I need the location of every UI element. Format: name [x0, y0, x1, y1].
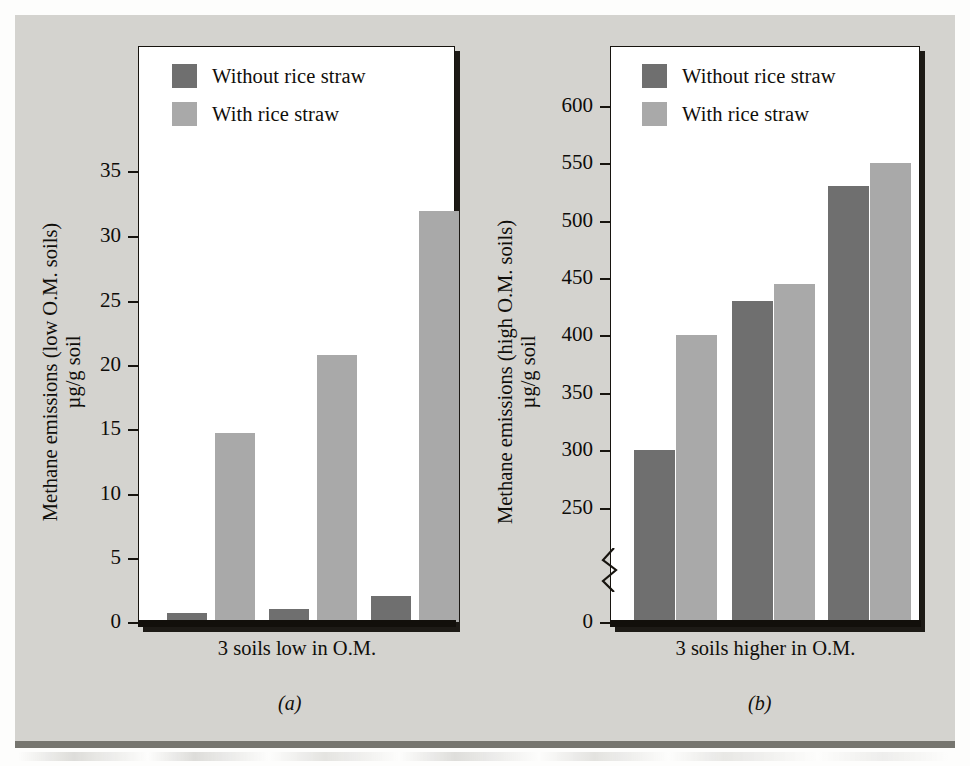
panel-a-tick-15 [128, 429, 138, 431]
panel-b-y-axis-label-line2: µg/g soil [517, 336, 539, 409]
panel-b-axis-break-icon [598, 548, 624, 592]
panel-b-bar-group2-with [774, 284, 815, 622]
panel-b-bar-group2-without [732, 301, 773, 622]
panel-b-bar-group1-without [634, 450, 675, 622]
panel-a-tick-0 [128, 622, 138, 624]
panel-a-x-axis-label: 3 soils low in O.M. [138, 637, 456, 660]
panel-a-bar-group1-with [215, 433, 255, 622]
panel-b-baseline [610, 620, 921, 627]
panel-a-tick-25 [128, 301, 138, 303]
legend-label-without-rice-straw: Without rice straw [212, 65, 366, 88]
legend-item-without-rice-straw: Without rice straw [642, 61, 836, 91]
panel-b: Without rice straw With rice straw 600 5… [470, 15, 955, 742]
panel-b-tick-500 [600, 221, 610, 223]
panel-a-y-axis-label: Methane emissions (low O.M. soils) µg/g … [39, 137, 85, 607]
panel-b-caption: (b) [748, 692, 771, 715]
panel-b-y-axis-label-line1: Methane emissions (high O.M. soils) [494, 220, 516, 524]
legend-swatch-dark-icon [642, 64, 667, 88]
panel-b-x-axis-label: 3 soils higher in O.M. [610, 637, 921, 660]
legend-label-without-rice-straw: Without rice straw [682, 65, 836, 88]
legend-item-with-rice-straw: With rice straw [172, 99, 366, 129]
panel-b-tick-550 [600, 163, 610, 165]
panel-b-y-axis-label: Methane emissions (high O.M. soils) µg/g… [494, 137, 540, 607]
panel-b-bar-group3-with [870, 163, 911, 622]
panel-a-tick-10 [128, 494, 138, 496]
panel-a-baseline [138, 620, 456, 627]
legend-swatch-dark-icon [172, 64, 197, 88]
panel-a-plot-area [138, 46, 455, 627]
panel-b-tick-250 [600, 508, 610, 510]
panel-a-tick-30 [128, 236, 138, 238]
panel-b-tick-400 [600, 335, 610, 337]
legend-swatch-light-icon [172, 102, 197, 126]
panel-b-tick-450 [600, 278, 610, 280]
panel-b-bar-group1-with [676, 335, 717, 622]
figure-bottom-rule [15, 741, 955, 748]
panel-a-y-axis-label-line1: Methane emissions (low O.M. soils) [39, 223, 61, 521]
panel-b-tick-350 [600, 393, 610, 395]
panel-a-y-axis-label-line2: µg/g soil [62, 336, 84, 409]
panel-a-legend: Without rice straw With rice straw [172, 61, 366, 129]
legend-label-with-rice-straw: With rice straw [682, 103, 809, 126]
panel-b-ytick-label-600: 600 [528, 93, 593, 118]
panel-a-caption: (a) [278, 692, 301, 715]
panel-b-legend: Without rice straw With rice straw [642, 61, 836, 129]
panel-b-bar-group3-without [828, 186, 869, 622]
panel-a-tick-20 [128, 365, 138, 367]
legend-swatch-light-icon [642, 102, 667, 126]
panel-a-tick-5 [128, 558, 138, 560]
legend-item-without-rice-straw: Without rice straw [172, 61, 366, 91]
panel-a-bar-group2-with [317, 355, 357, 622]
panel-b-tick-0 [600, 622, 610, 624]
panel-a: Without rice straw With rice straw 35 30… [15, 15, 470, 742]
legend-label-with-rice-straw: With rice straw [212, 103, 339, 126]
panel-a-tick-35 [128, 171, 138, 173]
page-bottom-text-smudge [18, 752, 948, 761]
panel-a-ytick-label-0: 0 [73, 609, 121, 634]
panel-a-bar-group3-with [419, 211, 459, 622]
legend-item-with-rice-straw: With rice straw [642, 99, 836, 129]
panel-a-bar-group3-without [371, 596, 411, 622]
panel-b-tick-600 [600, 106, 610, 108]
panel-b-tick-300 [600, 450, 610, 452]
panel-b-ytick-label-0: 0 [528, 609, 593, 634]
figure-plate: Without rice straw With rice straw 35 30… [15, 15, 955, 742]
